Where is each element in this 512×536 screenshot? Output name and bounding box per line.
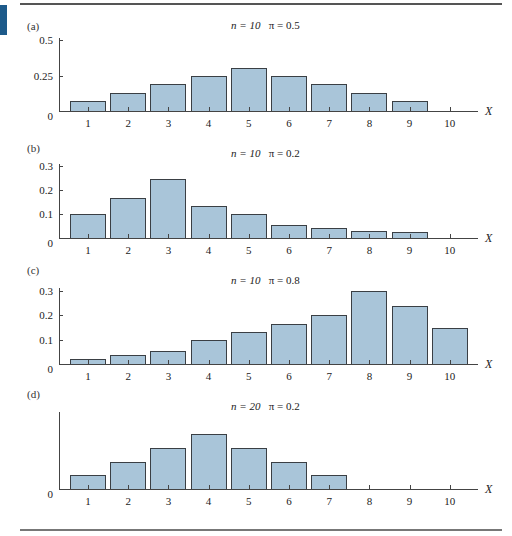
- x-axis-label: X: [485, 104, 492, 119]
- bottom-rule: [20, 529, 502, 531]
- y-tick: [59, 291, 63, 292]
- x-tick: [168, 234, 169, 238]
- x-tick: [289, 234, 290, 238]
- title-n: n = 10: [231, 19, 260, 31]
- x-tick-label: 4: [199, 495, 219, 507]
- y-tick-label: 0.3: [19, 285, 53, 297]
- title-n: n = 10: [231, 274, 260, 286]
- x-tick-label: 9: [400, 370, 420, 382]
- y-tick: [59, 76, 63, 77]
- bar-x3: [150, 448, 186, 489]
- x-tick: [450, 107, 451, 111]
- y-tick: [59, 40, 63, 41]
- x-tick-label: 4: [199, 370, 219, 382]
- bar-x9: [392, 306, 428, 364]
- x-tick: [249, 107, 250, 111]
- x-tick: [369, 485, 370, 489]
- title-spacer: [260, 274, 268, 286]
- x-tick: [128, 107, 129, 111]
- x-tick-label: 2: [118, 370, 138, 382]
- x-tick-label: 7: [319, 117, 339, 129]
- bar-x7: [311, 315, 347, 364]
- x-tick: [128, 234, 129, 238]
- title-pi: π = 0.5: [269, 19, 300, 31]
- x-tick: [329, 234, 330, 238]
- bar-x6: [271, 324, 307, 364]
- x-axis: [59, 111, 478, 112]
- y-tick-label: 0: [19, 237, 53, 249]
- x-axis: [59, 489, 478, 490]
- x-tick: [249, 360, 250, 364]
- y-tick-label: 0.2: [19, 184, 53, 196]
- y-tick: [59, 315, 63, 316]
- x-tick-label: 10: [440, 370, 460, 382]
- title-spacer: [260, 147, 268, 159]
- x-tick: [88, 360, 89, 364]
- title-spacer: [260, 400, 268, 412]
- x-tick-label: 10: [440, 495, 460, 507]
- x-tick-label: 10: [440, 117, 460, 129]
- x-tick-label: 2: [118, 244, 138, 256]
- title-pi: π = 0.2: [269, 147, 300, 159]
- x-tick: [289, 485, 290, 489]
- y-tick-label: 0.1: [19, 334, 53, 346]
- x-tick: [369, 360, 370, 364]
- x-tick-label: 6: [279, 117, 299, 129]
- x-tick: [329, 360, 330, 364]
- x-tick-label: 9: [400, 495, 420, 507]
- x-tick: [410, 360, 411, 364]
- chart-title: n = 10 π = 0.2: [231, 147, 300, 159]
- y-tick-label: 0: [19, 488, 53, 500]
- y-tick-label: 0.2: [19, 309, 53, 321]
- x-tick: [249, 485, 250, 489]
- bar-x8: [351, 291, 387, 364]
- bar-x4: [191, 434, 227, 489]
- x-tick-label: 2: [118, 495, 138, 507]
- x-tick: [450, 485, 451, 489]
- x-tick: [168, 107, 169, 111]
- y-axis: [59, 164, 60, 239]
- top-rule: [20, 3, 502, 5]
- x-tick-label: 3: [158, 117, 178, 129]
- x-tick: [450, 360, 451, 364]
- title-spacer: [260, 19, 268, 31]
- y-tick-label: 0.3: [19, 160, 53, 172]
- x-tick-label: 5: [239, 244, 259, 256]
- x-tick: [168, 360, 169, 364]
- y-tick: [59, 166, 63, 167]
- x-tick-label: 9: [400, 117, 420, 129]
- bar-x10: [432, 328, 468, 365]
- bar-x2: [110, 198, 146, 238]
- x-tick: [369, 234, 370, 238]
- x-tick-label: 1: [78, 117, 98, 129]
- y-tick-label: 0.25: [19, 70, 53, 82]
- x-tick-label: 4: [199, 244, 219, 256]
- x-tick: [209, 360, 210, 364]
- x-tick-label: 8: [359, 370, 379, 382]
- x-tick-label: 1: [78, 370, 98, 382]
- title-pi: π = 0.8: [269, 274, 300, 286]
- x-tick-label: 7: [319, 244, 339, 256]
- section-marker: [0, 5, 7, 35]
- y-tick-label: 0.1: [19, 208, 53, 220]
- x-tick: [88, 234, 89, 238]
- y-tick-label: 0: [19, 110, 53, 122]
- x-tick: [168, 485, 169, 489]
- y-axis: [59, 288, 60, 365]
- x-tick-label: 9: [400, 244, 420, 256]
- x-tick-label: 7: [319, 495, 339, 507]
- x-tick: [329, 107, 330, 111]
- x-tick: [450, 234, 451, 238]
- x-axis: [59, 238, 478, 239]
- title-n: n = 20: [231, 400, 260, 412]
- x-tick: [410, 107, 411, 111]
- chart-title: n = 10 π = 0.8: [231, 274, 300, 286]
- x-tick-label: 5: [239, 495, 259, 507]
- x-tick: [209, 107, 210, 111]
- x-axis-label: X: [485, 231, 492, 246]
- x-tick: [88, 485, 89, 489]
- x-axis-label: X: [485, 357, 492, 372]
- x-tick-label: 8: [359, 495, 379, 507]
- bar-x5: [231, 448, 267, 489]
- x-tick-label: 6: [279, 495, 299, 507]
